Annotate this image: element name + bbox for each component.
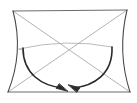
figure-root — [0, 0, 137, 103]
figure-background — [0, 0, 137, 103]
geometric-fold-diagram — [0, 0, 137, 103]
